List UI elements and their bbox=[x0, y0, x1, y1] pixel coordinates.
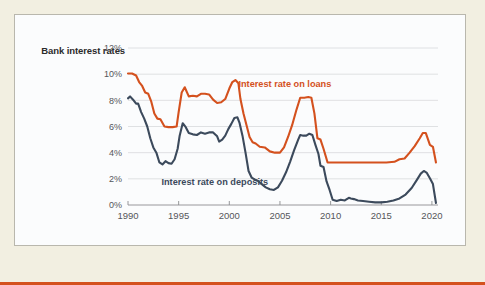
y-tick-label: 6% bbox=[109, 122, 122, 132]
x-tick-label: 2005 bbox=[269, 210, 290, 221]
plot-area: 12%10%8%6%4%2%0% 19901995200020052010201… bbox=[15, 15, 467, 247]
y-tick-label: 10% bbox=[104, 69, 122, 79]
x-axis-tick-labels: 1990199520002005201020152020 bbox=[117, 210, 442, 221]
y-tick-label: 12% bbox=[104, 43, 122, 53]
y-tick-label: 2% bbox=[109, 174, 122, 184]
x-tick-label: 1995 bbox=[168, 210, 189, 221]
x-tick-label: 2015 bbox=[371, 210, 392, 221]
y-tick-label: 0% bbox=[109, 200, 122, 210]
y-tick-label: 4% bbox=[109, 148, 122, 158]
y-axis-tick-labels: 12%10%8%6%4%2%0% bbox=[104, 43, 122, 210]
y-tick-label: 8% bbox=[109, 96, 122, 106]
series-annotations: Interest rate on loansInterest rate on d… bbox=[161, 79, 331, 187]
x-tick-label: 2010 bbox=[320, 210, 341, 221]
chart-panel: Bank interest rates 12%10%8%6%4%2%0% 199… bbox=[14, 14, 466, 246]
x-tick-label: 1990 bbox=[117, 210, 138, 221]
deposits-label: Interest rate on deposits bbox=[161, 177, 268, 187]
line-chart: 12%10%8%6%4%2%0% 19901995200020052010201… bbox=[15, 15, 467, 247]
x-tick-label: 2020 bbox=[421, 210, 442, 221]
loans-label: Interest rate on loans bbox=[238, 79, 331, 89]
x-tick-label: 2000 bbox=[219, 210, 240, 221]
